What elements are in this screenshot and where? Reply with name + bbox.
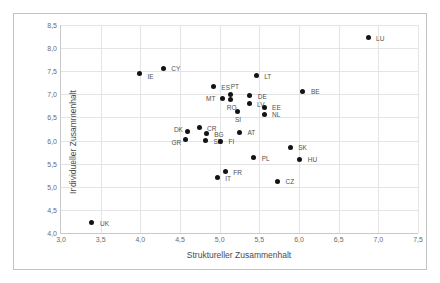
data-point-label-hu: HU <box>308 156 317 163</box>
data-point-label-lt: LT <box>264 72 271 79</box>
data-point-es[interactable] <box>211 84 216 89</box>
x-axis-tick-label: 6,5 <box>334 236 344 243</box>
data-point-label-be: BE <box>311 88 320 95</box>
figure-container: Individueller Zusammenhalt 4,04,55,05,56… <box>0 0 440 283</box>
x-axis-tick-label: 3,0 <box>56 236 66 243</box>
gridline-vertical <box>259 25 260 233</box>
y-axis-tick-label: 6,5 <box>47 114 57 121</box>
plot-area: 4,04,55,05,56,06,57,07,58,08,53,03,54,04… <box>60 25 418 234</box>
y-axis-tick-label: 8,0 <box>47 45 57 52</box>
gridline-vertical <box>339 25 340 233</box>
x-axis-tick-label: 4,0 <box>135 236 145 243</box>
data-point-se[interactable] <box>203 138 208 143</box>
gridline-vertical <box>378 25 379 233</box>
data-point-lt[interactable] <box>254 73 259 78</box>
data-point-mt[interactable] <box>220 96 225 101</box>
gridline-horizontal <box>61 210 418 211</box>
y-axis-tick-label: 7,5 <box>47 68 57 75</box>
data-point-label-pl: PL <box>262 154 270 161</box>
y-axis-tick-label: 7,0 <box>47 91 57 98</box>
data-point-at[interactable] <box>237 130 242 135</box>
gridline-horizontal <box>61 25 418 26</box>
gridline-vertical <box>299 25 300 233</box>
data-point-si[interactable] <box>235 109 240 114</box>
data-point-label-fr: FR <box>233 168 242 175</box>
x-axis-tick-label: 7,0 <box>373 236 383 243</box>
data-point-nl[interactable] <box>262 112 267 117</box>
data-point-label-fi: FI <box>228 138 234 145</box>
x-axis-tick-label: 5,5 <box>254 236 264 243</box>
y-axis-tick-label: 8,5 <box>47 22 57 29</box>
data-point-label-de: DE <box>258 92 267 99</box>
x-axis-tick-label: 6,0 <box>294 236 304 243</box>
data-point-dk[interactable] <box>185 129 190 134</box>
x-axis-tick-label: 5,0 <box>215 236 225 243</box>
data-point-ro[interactable] <box>228 97 233 102</box>
data-point-label-mt: MT <box>206 95 215 102</box>
data-point-lv[interactable] <box>247 101 252 106</box>
x-axis-tick-label: 7,5 <box>413 236 423 243</box>
gridline-horizontal <box>61 48 418 49</box>
data-point-label-cz: CZ <box>286 178 295 185</box>
gridline-vertical <box>101 25 102 233</box>
data-point-label-gr: GR <box>172 139 182 146</box>
data-point-label-sk: SK <box>298 144 307 151</box>
gridline-horizontal <box>61 141 418 142</box>
data-point-pt[interactable] <box>228 92 233 97</box>
gridline-vertical <box>220 25 221 233</box>
data-point-hu[interactable] <box>297 157 302 162</box>
data-point-label-ie: IE <box>148 72 154 79</box>
data-point-be[interactable] <box>300 89 305 94</box>
data-point-label-at: AT <box>248 129 256 136</box>
gridline-horizontal <box>61 187 418 188</box>
data-point-cr[interactable] <box>197 125 202 130</box>
x-axis-tick-label: 4,5 <box>175 236 185 243</box>
data-point-lu[interactable] <box>366 35 371 40</box>
data-point-bg[interactable] <box>204 131 209 136</box>
gridline-horizontal <box>61 94 418 95</box>
y-axis-tick-label: 5,5 <box>47 160 57 167</box>
gridline-horizontal <box>61 71 418 72</box>
gridline-horizontal <box>61 164 418 165</box>
data-point-label-uk: UK <box>100 219 109 226</box>
x-axis-label: Struktureller Zusammenhalt <box>60 250 418 260</box>
data-point-cz[interactable] <box>275 179 280 184</box>
data-point-label-bg: BG <box>214 130 223 137</box>
data-point-label-cy: CY <box>171 65 180 72</box>
gridline-vertical <box>418 25 419 233</box>
y-axis-tick-label: 4,5 <box>47 206 57 213</box>
y-axis-tick-label: 5,0 <box>47 183 57 190</box>
data-point-fi[interactable] <box>218 139 223 144</box>
y-axis-tick-label: 6,0 <box>47 137 57 144</box>
data-point-de[interactable] <box>247 93 252 98</box>
data-point-pl[interactable] <box>251 155 256 160</box>
x-axis-tick-label: 3,5 <box>96 236 106 243</box>
data-point-label-dk: DK <box>174 125 183 132</box>
data-point-label-it: IT <box>225 174 231 181</box>
data-point-sk[interactable] <box>288 145 293 150</box>
data-point-label-ee: EE <box>272 104 281 111</box>
chart-frame: Individueller Zusammenhalt 4,04,55,05,56… <box>13 13 427 270</box>
data-point-label-nl: NL <box>272 111 280 118</box>
data-point-uk[interactable] <box>89 220 94 225</box>
data-point-ee[interactable] <box>262 105 267 110</box>
data-point-label-pt: PT <box>231 83 239 90</box>
gridline-vertical <box>140 25 141 233</box>
data-point-label-si: SI <box>235 115 241 122</box>
data-point-label-lu: LU <box>376 34 384 41</box>
data-point-label-es: ES <box>221 83 230 90</box>
data-point-cy[interactable] <box>161 66 166 71</box>
data-point-gr[interactable] <box>183 137 188 142</box>
